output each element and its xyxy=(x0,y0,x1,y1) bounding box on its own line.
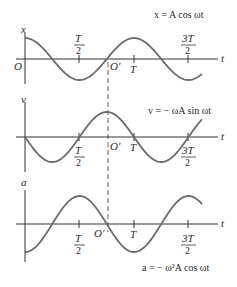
origin-label: O xyxy=(14,60,22,72)
a-equation: a = − ω²A cos ωt xyxy=(142,262,209,273)
x-equation: x = A cos ωt xyxy=(154,9,204,20)
tick-label-T-over-2-num: T xyxy=(75,232,82,244)
tick-label-3T-over-2-den: 2 xyxy=(185,45,190,56)
panel-velocity: v t v = − ωA sin ωt T 2 O′ T 3T 2 xyxy=(16,93,225,172)
tick-label-3T-over-2-den: 2 xyxy=(185,157,190,168)
tick-label-3T-over-2-num: 3T xyxy=(181,232,195,244)
tick-label-T-over-2-den: 2 xyxy=(76,245,81,256)
time-label-1: t xyxy=(221,52,225,64)
tick-label-T-over-2-den: 2 xyxy=(76,157,81,168)
tick-label-3T-over-2-num: 3T xyxy=(181,32,195,44)
tick-label-T: T xyxy=(130,63,137,75)
shm-diagram: x O t x = A cos ωt T 2 O′ T 3T 2 v t v =… xyxy=(0,0,237,287)
tick-label-T-over-2-den: 2 xyxy=(76,45,81,56)
panel-displacement: x O t x = A cos ωt T 2 O′ T 3T 2 xyxy=(14,9,225,84)
tick-label-T: T xyxy=(130,228,137,240)
a-axis-label: a xyxy=(21,176,27,188)
tick-label-3T-over-2-num: 3T xyxy=(181,144,195,156)
v-equation: v = − ωA sin ωt xyxy=(148,105,211,116)
time-label-3: t xyxy=(221,217,225,229)
tick-label-T-over-2-num: T xyxy=(75,144,82,156)
v-axis-label: v xyxy=(21,93,26,105)
tick-label-O-prime: O′ xyxy=(110,140,121,152)
panel-acceleration: a t a = − ω²A cos ωt T 2 O′ T 3T 2 xyxy=(16,176,225,273)
tick-label-O-prime: O′ xyxy=(110,60,121,72)
tick-label-O-prime: O′ xyxy=(94,227,105,239)
tick-label-T: T xyxy=(130,141,137,153)
time-label-2: t xyxy=(221,130,225,142)
tick-label-3T-over-2-den: 2 xyxy=(185,245,190,256)
tick-label-T-over-2-num: T xyxy=(75,32,82,44)
x-axis-label: x xyxy=(20,23,26,35)
